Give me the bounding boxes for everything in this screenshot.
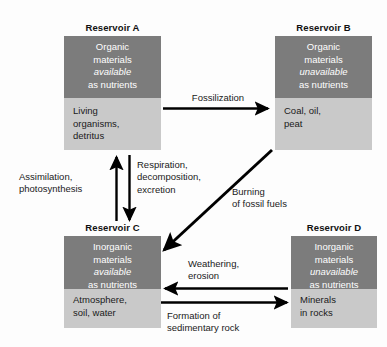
reservoir-c-top-line2: materials: [66, 254, 159, 267]
reservoir-b-lower-section: Coal, oil, peat: [275, 98, 372, 150]
reservoir-a-lower-section: Living organisms, detritus: [64, 98, 161, 150]
flow-label-respiration: Respiration, decomposition, excretion: [137, 159, 232, 196]
reservoir-d-top-emphasis: unavailable: [293, 266, 375, 279]
flow-label-respiration-line3: excretion: [137, 184, 232, 196]
reservoir-a-top-line1: Organic: [66, 41, 159, 54]
reservoir-box-c[interactable]: Reservoir C Inorganic materials availabl…: [64, 236, 161, 328]
reservoir-box-a[interactable]: Reservoir A Organic materials available …: [64, 36, 161, 150]
reservoir-d-lower-section: Minerals in rocks: [291, 289, 377, 328]
flow-label-sedimentary-line1: Formation of: [167, 310, 287, 322]
reservoir-c-top-emphasis: available: [66, 266, 159, 279]
reservoir-c-title: Reservoir C: [64, 222, 161, 233]
reservoir-b-bottom-line1: Coal, oil,: [284, 105, 372, 118]
flow-label-respiration-line2: decomposition,: [137, 171, 232, 183]
reservoir-d-upper-section: Inorganic materials unavailable as nutri…: [291, 236, 377, 289]
reservoir-b-top-line1: Organic: [277, 41, 370, 54]
reservoir-d-top-line1: Inorganic: [293, 241, 375, 254]
reservoir-d-title: Reservoir D: [291, 222, 377, 233]
flow-label-assimilation-line2: photosynthesis: [19, 183, 111, 195]
flow-label-weathering: Weathering, erosion: [188, 258, 278, 283]
reservoir-a-top-line2: materials: [66, 54, 159, 67]
reservoir-c-top-line1: Inorganic: [66, 241, 159, 254]
flow-label-fossilization-line1: Fossilization: [178, 92, 258, 104]
reservoir-d-top-line2: materials: [293, 254, 375, 267]
reservoir-b-upper-section: Organic materials unavailable as nutrien…: [275, 36, 372, 98]
flow-label-weathering-line1: Weathering,: [188, 258, 278, 270]
reservoir-b-top-line2: materials: [277, 54, 370, 67]
reservoir-box-d[interactable]: Reservoir D Inorganic materials unavaila…: [291, 236, 377, 328]
reservoir-b-bottom-line2: peat: [284, 118, 372, 131]
flow-label-sedimentary-line2: sedimentary rock: [167, 322, 287, 334]
reservoir-b-top-emphasis: unavailable: [277, 66, 370, 79]
reservoir-box-b[interactable]: Reservoir B Organic materials unavailabl…: [275, 36, 372, 150]
reservoir-b-title: Reservoir B: [275, 22, 372, 33]
reservoir-d-bottom-line1: Minerals: [300, 294, 377, 307]
flow-label-assimilation-line1: Assimilation,: [19, 171, 111, 183]
flow-label-burning-line1: Burning: [232, 186, 332, 198]
flow-label-fossilization: Fossilization: [178, 92, 258, 104]
reservoir-a-top-emphasis: available: [66, 66, 159, 79]
reservoir-a-title: Reservoir A: [64, 22, 161, 33]
flow-label-respiration-line1: Respiration,: [137, 159, 232, 171]
reservoir-a-upper-section: Organic materials available as nutrients: [64, 36, 161, 98]
reservoir-c-bottom-line1: Atmosphere,: [73, 294, 161, 307]
diagram-canvas: Reservoir A Organic materials available …: [0, 0, 387, 347]
reservoir-d-bottom-line2: in rocks: [300, 307, 377, 320]
reservoir-a-bottom-line3: detritus: [73, 130, 161, 143]
reservoir-b-top-line4: as nutrients: [277, 79, 370, 92]
reservoir-c-bottom-line2: soil, water: [73, 307, 161, 320]
flow-label-weathering-line2: erosion: [188, 270, 278, 282]
reservoir-c-lower-section: Atmosphere, soil, water: [64, 289, 161, 328]
reservoir-a-bottom-line2: organisms,: [73, 118, 161, 131]
flow-label-assimilation: Assimilation, photosynthesis: [19, 171, 111, 196]
flow-label-sedimentary-rock: Formation of sedimentary rock: [167, 310, 287, 335]
reservoir-a-bottom-line1: Living: [73, 105, 161, 118]
flow-label-burning-fossil-fuels: Burning of fossil fuels: [232, 186, 332, 211]
flow-label-burning-line2: of fossil fuels: [232, 198, 332, 210]
reservoir-c-upper-section: Inorganic materials available as nutrien…: [64, 236, 161, 289]
reservoir-a-top-line4: as nutrients: [66, 79, 159, 92]
